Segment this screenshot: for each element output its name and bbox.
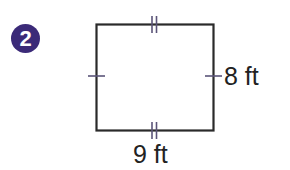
height-label: 8 ft <box>224 64 259 89</box>
width-label: 9 ft <box>133 142 168 167</box>
rectangle-outline <box>97 25 214 131</box>
